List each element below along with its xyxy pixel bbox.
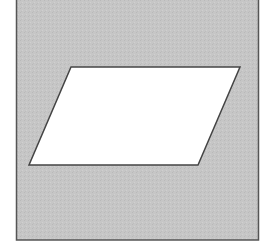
diagram-canvas: [0, 0, 261, 242]
